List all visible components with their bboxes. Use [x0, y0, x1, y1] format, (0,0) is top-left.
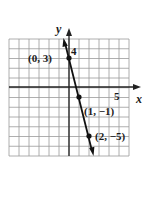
point-1-neg1 [76, 94, 81, 99]
point-label-1-neg1: (1, −1) [84, 105, 114, 118]
y-axis-label: y [54, 22, 62, 36]
coordinate-plane: y x 4 5 (0, 3) (1, −1) (2, −5) [0, 0, 155, 198]
point-2-neg5 [86, 133, 91, 138]
point-label-0-3: (0, 3) [28, 52, 52, 65]
y-axis-arrow-icon [66, 28, 72, 36]
line-arrow-bottom-icon [89, 147, 94, 156]
x-tick-label: 5 [114, 90, 120, 102]
point-label-2-neg5: (2, −5) [95, 130, 125, 143]
x-axis-label: x [135, 92, 142, 106]
x-axis-arrow-icon [133, 84, 141, 90]
y-tick-label: 4 [71, 45, 77, 57]
